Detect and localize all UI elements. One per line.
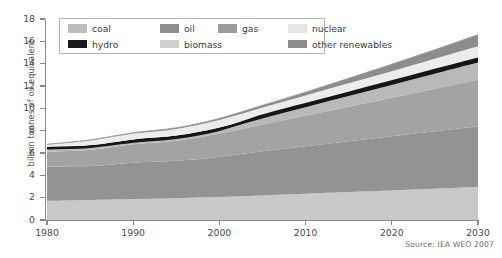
- x-axis-line: [45, 220, 478, 221]
- x-tick: [477, 220, 478, 225]
- y-tick-label: 8: [5, 124, 35, 135]
- chart-figure: billion tonnes of oil equivalent 0246810…: [0, 0, 502, 258]
- legend-item-oil[interactable]: oil: [160, 23, 195, 34]
- x-tick: [219, 220, 220, 225]
- y-tick: [40, 41, 45, 42]
- x-tick: [305, 220, 306, 225]
- legend-swatch-icon: [68, 40, 87, 49]
- legend-swatch-icon: [218, 24, 237, 33]
- x-tick: [133, 220, 134, 225]
- chart-legend: coaloilgasnuclear hydrobiomassother rene…: [59, 18, 325, 54]
- y-tick: [40, 197, 45, 198]
- legend-item-biomass[interactable]: biomass: [160, 39, 222, 50]
- x-tick-label: 2010: [281, 227, 331, 238]
- legend-swatch-icon: [68, 24, 87, 33]
- y-tick-label: 14: [5, 57, 35, 68]
- y-tick-label: 12: [5, 80, 35, 91]
- y-tick-label: 4: [5, 169, 35, 180]
- legend-row-1: coaloilgasnuclear: [60, 21, 324, 36]
- legend-row-2: hydrobiomassother renewables: [60, 37, 324, 52]
- legend-label: coal: [92, 23, 111, 34]
- x-tick-label: 1980: [22, 227, 72, 238]
- legend-swatch-icon: [288, 24, 307, 33]
- legend-label: biomass: [184, 39, 222, 50]
- legend-label: gas: [242, 23, 258, 34]
- legend-swatch-icon: [160, 40, 179, 49]
- y-tick: [40, 219, 45, 220]
- legend-label: oil: [184, 23, 195, 34]
- legend-swatch-icon: [160, 24, 179, 33]
- y-tick-label: 6: [5, 147, 35, 158]
- source-note: Source: IEA WEO 2007: [405, 240, 494, 249]
- x-tick-label: 2030: [453, 227, 502, 238]
- y-tick-label: 2: [5, 191, 35, 202]
- area-series-group: [47, 35, 478, 220]
- x-tick: [46, 220, 47, 225]
- x-tick-label: 2020: [367, 227, 417, 238]
- y-tick: [40, 108, 45, 109]
- legend-label: nuclear: [312, 23, 346, 34]
- legend-item-nuclear[interactable]: nuclear: [288, 23, 346, 34]
- y-tick: [40, 85, 45, 86]
- legend-swatch-icon: [288, 40, 307, 49]
- y-tick: [40, 18, 45, 19]
- y-tick-label: 10: [5, 102, 35, 113]
- y-tick-label: 16: [5, 35, 35, 46]
- y-tick-label: 18: [5, 13, 35, 24]
- legend-item-coal[interactable]: coal: [68, 23, 111, 34]
- legend-item-gas[interactable]: gas: [218, 23, 258, 34]
- y-tick: [40, 152, 45, 153]
- legend-item-hydro[interactable]: hydro: [68, 39, 118, 50]
- x-tick-label: 2000: [194, 227, 244, 238]
- x-tick-label: 1990: [108, 227, 158, 238]
- y-tick-label: 0: [5, 214, 35, 225]
- x-tick: [391, 220, 392, 225]
- y-axis-line: [45, 19, 46, 220]
- legend-item-other-renewables[interactable]: other renewables: [288, 39, 392, 50]
- legend-label: other renewables: [312, 39, 392, 50]
- legend-label: hydro: [92, 39, 118, 50]
- y-tick: [40, 63, 45, 64]
- y-tick: [40, 175, 45, 176]
- y-tick: [40, 130, 45, 131]
